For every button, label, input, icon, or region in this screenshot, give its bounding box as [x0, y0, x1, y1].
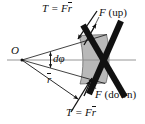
figure-container: T = Fr F (up) F (down) T = Fr O dφ r	[0, 0, 145, 124]
origin-vertex-dot	[21, 59, 24, 62]
diagram-canvas	[0, 0, 145, 124]
force-up-leader	[92, 17, 99, 31]
